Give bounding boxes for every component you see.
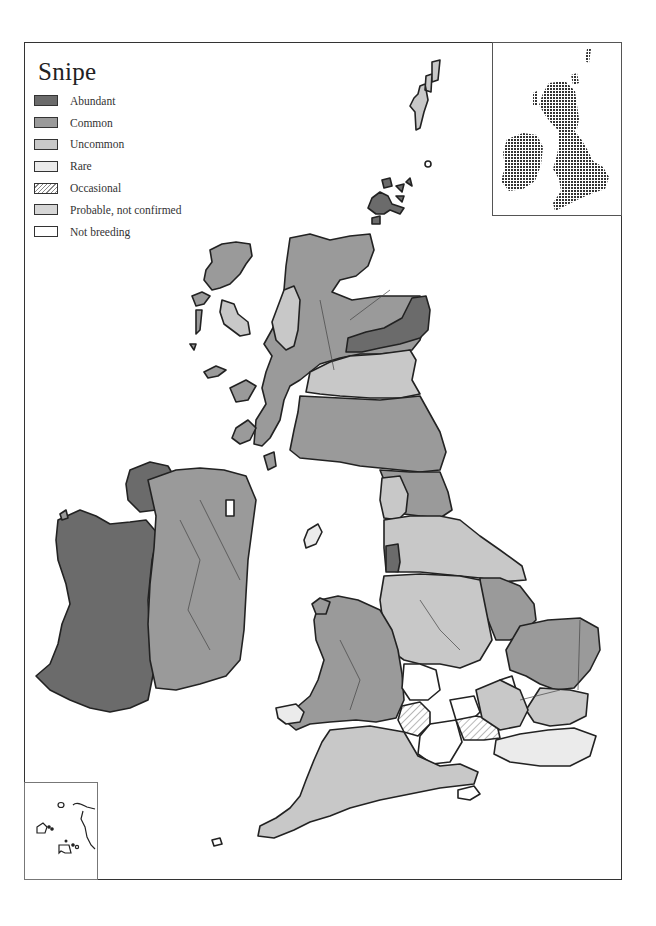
- swatch-occasional: [34, 183, 58, 194]
- legend-item-abundant: Abundant: [34, 90, 181, 112]
- legend-label: Probable, not confirmed: [70, 204, 181, 216]
- legend-label: Occasional: [70, 182, 121, 194]
- legend-item-occasional: Occasional: [34, 177, 181, 199]
- region-ireland-west: [36, 510, 158, 712]
- region-scotland-south: [290, 396, 446, 472]
- legend-item-uncommon: Uncommon: [34, 134, 181, 156]
- swatch-probable: [34, 204, 58, 215]
- region-east-anglia: [506, 618, 600, 690]
- region-pembroke: [276, 704, 304, 724]
- legend-item-rare: Rare: [34, 155, 181, 177]
- swatch-rare: [34, 161, 58, 172]
- legend-label: Abundant: [70, 95, 115, 107]
- legend-label: Uncommon: [70, 138, 124, 150]
- dot-distribution-map: [493, 43, 621, 215]
- region-england-north-central: [384, 516, 526, 582]
- region-lough-neagh: [226, 500, 234, 516]
- region-fair-isle: [425, 161, 431, 167]
- legend-item-not-breeding: Not breeding: [34, 221, 181, 243]
- region-shetland: [410, 60, 440, 130]
- swatch-common: [34, 117, 58, 128]
- legend-label: Rare: [70, 160, 92, 172]
- map-title: Snipe: [38, 58, 96, 86]
- region-scilly: [212, 838, 222, 846]
- region-essex: [526, 688, 588, 726]
- region-not-breeding-oxford: [402, 664, 440, 700]
- swatch-abundant: [34, 95, 58, 106]
- region-achill: [60, 510, 68, 520]
- region-skye: [220, 300, 250, 336]
- overview-inset-map: [492, 42, 622, 216]
- region-isle-of-wight: [458, 786, 480, 800]
- legend-item-common: Common: [34, 112, 181, 134]
- swatch-not-breeding: [34, 226, 58, 237]
- legend-item-probable: Probable, not confirmed: [34, 199, 181, 221]
- region-scotland-northwest: [272, 286, 300, 350]
- legend-label: Common: [70, 117, 113, 129]
- region-kent-sussex: [494, 728, 596, 766]
- region-northern-england-cumbria: [380, 476, 408, 520]
- channel-islands-map: [25, 783, 97, 879]
- region-anglesey: [312, 598, 330, 614]
- swatch-uncommon: [34, 139, 58, 150]
- channel-islands-inset: [24, 782, 98, 880]
- region-isle-of-man: [304, 524, 322, 548]
- legend: Abundant Common Uncommon Rare Occasional…: [34, 90, 181, 243]
- region-orkney: [368, 178, 412, 224]
- legend-label: Not breeding: [70, 226, 130, 238]
- region-lancashire: [386, 544, 400, 572]
